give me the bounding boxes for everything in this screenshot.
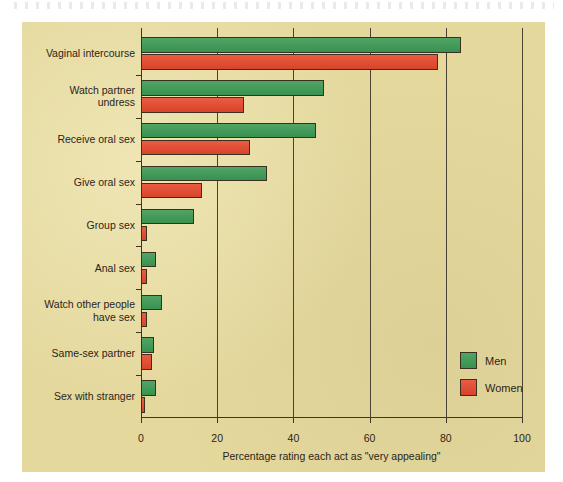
- category-label-1: Watch partner undress: [69, 84, 135, 109]
- category-axis-labels: Vaginal intercourseWatch partner undress…: [22, 32, 135, 418]
- women-color-swatch: [460, 379, 477, 396]
- bar-women-6: [141, 312, 147, 328]
- gridline-80: [446, 28, 447, 418]
- y-tick-7: [136, 332, 141, 333]
- chart-figure: Vaginal intercourseWatch partner undress…: [0, 0, 563, 482]
- legend-item-men: Men: [460, 352, 540, 369]
- bar-women-0: [141, 54, 438, 70]
- y-tick-2: [136, 118, 141, 119]
- x-tick-label-60: 60: [364, 432, 376, 444]
- x-axis-title: Percentage rating each act as "very appe…: [222, 450, 440, 462]
- bar-women-3: [141, 183, 202, 199]
- category-label-7: Same-sex partner: [52, 347, 135, 360]
- category-label-2: Receive oral sex: [57, 133, 135, 146]
- bar-men-5: [141, 252, 156, 268]
- x-tick-20: [217, 418, 218, 423]
- bar-men-7: [141, 337, 154, 353]
- bar-women-1: [141, 97, 244, 113]
- bar-men-6: [141, 295, 162, 311]
- bar-women-7: [141, 354, 152, 370]
- y-tick-6: [136, 289, 141, 290]
- bar-women-5: [141, 269, 147, 285]
- category-label-4: Group sex: [87, 219, 135, 232]
- x-tick-label-20: 20: [211, 432, 223, 444]
- legend-label-women: Women: [485, 382, 523, 394]
- bar-men-1: [141, 80, 324, 96]
- chart-legend: Men Women: [460, 352, 540, 406]
- category-label-6: Watch other people have sex: [44, 298, 135, 323]
- x-tick-label-40: 40: [288, 432, 300, 444]
- bar-men-8: [141, 380, 156, 396]
- y-tick-8: [136, 375, 141, 376]
- category-label-3: Give oral sex: [74, 176, 135, 189]
- x-tick-100: [522, 418, 523, 423]
- bar-women-4: [141, 226, 147, 242]
- x-tick-60: [370, 418, 371, 423]
- x-tick-label-0: 0: [138, 432, 144, 444]
- y-tick-1: [136, 75, 141, 76]
- bar-men-2: [141, 123, 316, 139]
- x-axis-line: [141, 417, 522, 418]
- category-label-5: Anal sex: [95, 262, 135, 275]
- x-tick-label-80: 80: [440, 432, 452, 444]
- bar-women-2: [141, 140, 250, 156]
- x-tick-0: [141, 418, 142, 423]
- gridline-60: [370, 28, 371, 418]
- bar-men-4: [141, 209, 194, 225]
- scan-artifact-top: [0, 0, 563, 16]
- category-label-8: Sex with stranger: [54, 390, 135, 403]
- scan-smudge: [14, 2, 554, 9]
- bar-women-8: [141, 397, 145, 413]
- category-label-0: Vaginal intercourse: [46, 47, 135, 60]
- y-tick-4: [136, 204, 141, 205]
- y-tick-5: [136, 246, 141, 247]
- x-tick-label-100: 100: [513, 432, 531, 444]
- bar-men-3: [141, 166, 267, 182]
- bar-men-0: [141, 37, 461, 53]
- x-tick-80: [446, 418, 447, 423]
- men-color-swatch: [460, 352, 477, 369]
- chart-panel: Vaginal intercourseWatch partner undress…: [22, 22, 545, 472]
- x-tick-40: [293, 418, 294, 423]
- y-tick-3: [136, 161, 141, 162]
- legend-item-women: Women: [460, 379, 540, 396]
- legend-label-men: Men: [485, 355, 506, 367]
